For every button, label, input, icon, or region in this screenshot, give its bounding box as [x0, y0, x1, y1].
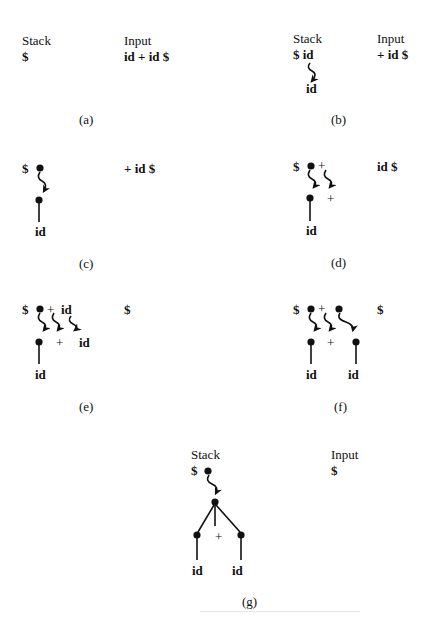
tree-node — [36, 339, 42, 345]
diagram-graphics — [0, 0, 432, 626]
pointer-arrow-icon — [308, 170, 315, 187]
pointer-arrow-icon — [208, 475, 217, 493]
tree-node — [308, 339, 314, 345]
pointer-arrow-icon — [38, 172, 45, 191]
stack-node — [205, 468, 211, 474]
stack-node — [37, 306, 43, 312]
stack-node — [308, 163, 314, 169]
pointer-arrow-icon — [308, 63, 315, 81]
stack-node — [37, 165, 43, 171]
tree-node — [307, 195, 313, 201]
pointer-arrow-icon — [324, 313, 331, 330]
pointer-arrow-icon — [324, 170, 331, 187]
tree-node — [194, 532, 200, 538]
tree-edge — [216, 505, 240, 532]
pointer-arrow-icon — [38, 313, 45, 330]
stack-node — [336, 306, 342, 312]
tree-root-node — [212, 499, 218, 505]
tree-node — [238, 532, 244, 538]
stack-node — [308, 306, 314, 312]
tree-edge — [198, 505, 214, 532]
pointer-arrow-icon — [52, 313, 59, 330]
tree-node — [36, 197, 42, 203]
pointer-arrow-icon — [69, 316, 76, 330]
pointer-arrow-icon — [339, 313, 353, 330]
pointer-arrow-icon — [309, 313, 316, 330]
tree-node — [353, 339, 359, 345]
